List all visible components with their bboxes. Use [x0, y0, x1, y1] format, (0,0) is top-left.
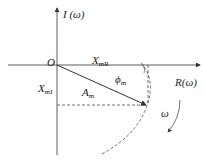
xmi-label: XmI [38, 83, 53, 96]
omega-arrow [168, 100, 180, 132]
nyquist-diagram [0, 0, 204, 161]
real-axis-label: R(ω) [175, 77, 197, 88]
origin-label: O [47, 57, 55, 68]
am-label: Am [82, 87, 94, 100]
omega-label: ω [161, 108, 169, 119]
vector-am [57, 65, 146, 105]
imaginary-axis-label: I (ω) [63, 9, 85, 20]
phase-arc [143, 65, 145, 73]
phim-label: ϕm [115, 74, 126, 87]
xmr-label: XmR [92, 55, 109, 68]
